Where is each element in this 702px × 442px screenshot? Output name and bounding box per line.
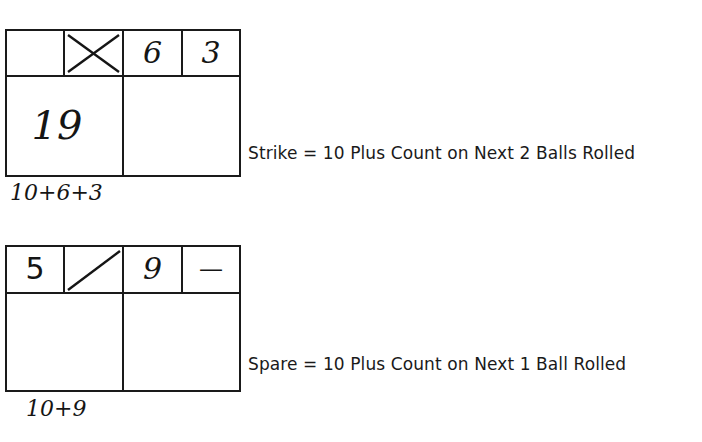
frame1-score: 19 (7, 103, 107, 147)
frame2-ball1: 6 (124, 31, 181, 75)
strike-rule: Strike = 10 Plus Count on Next 2 Balls R… (248, 143, 635, 163)
strike-scorecard: 6 3 19 (5, 29, 241, 177)
spare-calculation: 10+9 (26, 396, 86, 421)
frame2-ball1: 9 (124, 247, 181, 291)
frame2-ball2: 3 (183, 31, 239, 75)
spare-rule: Spare = 10 Plus Count on Next 1 Ball Rol… (248, 354, 626, 374)
spare-slash-icon (65, 248, 122, 292)
strike-x-icon (65, 32, 122, 75)
spare-scorecard: 5 9 — (5, 245, 241, 392)
frame1-ball1: 5 (7, 247, 63, 291)
frame2-ball2: — (183, 247, 239, 291)
strike-calculation: 10+6+3 (10, 180, 103, 205)
